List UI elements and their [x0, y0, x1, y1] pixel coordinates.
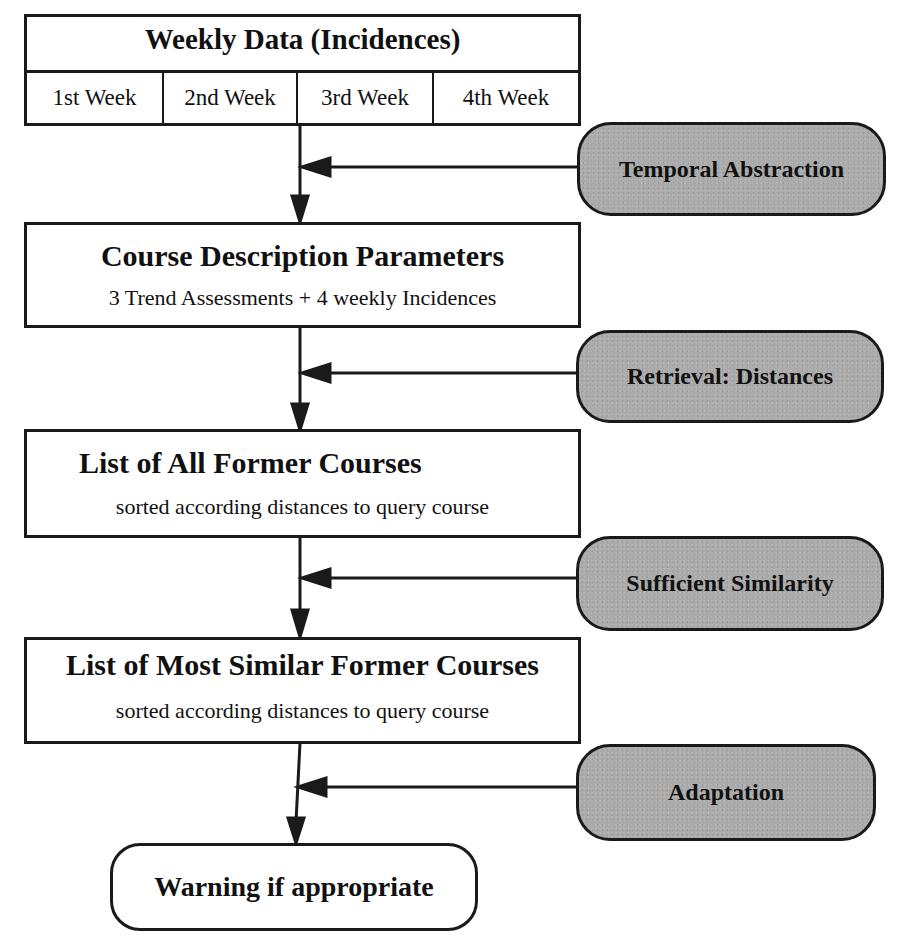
all-former-courses-title: List of All Former Courses — [27, 446, 578, 480]
process-sufficient-similarity: Sufficient Similarity — [576, 536, 884, 631]
warning-result: Warning if appropriate — [110, 843, 478, 931]
all-former-courses-subtitle: sorted according distances to query cour… — [27, 494, 578, 520]
week-cell-4: 4th Week — [434, 73, 578, 123]
week-row: 1st Week 2nd Week 3rd Week 4th Week — [27, 70, 578, 123]
all-former-courses-box: List of All Former Courses sorted accord… — [24, 429, 581, 538]
week-cell-2: 2nd Week — [164, 73, 298, 123]
weekly-data-title: Weekly Data (Incidences) — [27, 23, 578, 56]
week-cell-1: 1st Week — [27, 73, 164, 123]
most-similar-courses-subtitle: sorted according distances to query cour… — [27, 698, 578, 724]
course-description-box: Course Description Parameters 3 Trend As… — [24, 222, 581, 328]
course-description-title: Course Description Parameters — [27, 239, 578, 273]
process-retrieval-distances: Retrieval: Distances — [576, 330, 884, 423]
course-description-subtitle: 3 Trend Assessments + 4 weekly Incidence… — [27, 285, 578, 311]
process-adaptation: Adaptation — [576, 744, 876, 841]
process-temporal-abstraction: Temporal Abstraction — [577, 122, 886, 216]
most-similar-courses-title: List of Most Similar Former Courses — [27, 648, 578, 682]
weekly-data-box: Weekly Data (Incidences) 1st Week 2nd We… — [24, 14, 581, 126]
most-similar-courses-box: List of Most Similar Former Courses sort… — [24, 637, 581, 744]
week-cell-3: 3rd Week — [298, 73, 434, 123]
